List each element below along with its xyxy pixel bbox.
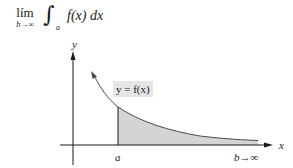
curve-label: y = f(x): [113, 81, 153, 97]
x-axis-label: x: [279, 139, 284, 151]
curve-arrow-icon: [91, 71, 97, 79]
y-axis-label: y: [72, 38, 77, 50]
x-axis-arrow-icon: [264, 143, 273, 148]
point-b-label: b→∞: [234, 151, 258, 163]
point-a-label: a: [115, 151, 121, 163]
y-axis-arrow-icon: [71, 51, 76, 60]
